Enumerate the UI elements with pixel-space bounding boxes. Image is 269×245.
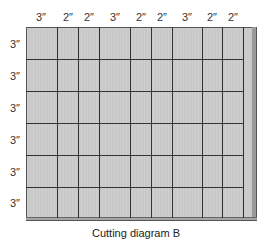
cutting-diagram: 3″ 2″ 2″ 3″ 2″ 2″ 3″ 2″ 2″ 3″ 3″ 3″ 3″ 3…: [0, 0, 269, 245]
diagram-caption: Cutting diagram B: [92, 227, 180, 239]
row-label: 3″: [10, 103, 20, 114]
horizontal-cut-line: [26, 91, 244, 92]
column-label: 2″: [63, 12, 73, 23]
column-label: 2″: [228, 12, 238, 23]
horizontal-cut-line: [26, 59, 244, 60]
row-label: 3″: [10, 198, 20, 209]
column-label: 2″: [207, 12, 217, 23]
row-label: 3″: [10, 167, 20, 178]
column-label: 3″: [36, 12, 46, 23]
column-label: 2″: [84, 12, 94, 23]
row-label: 3″: [10, 135, 20, 146]
horizontal-cut-line: [26, 155, 244, 156]
column-label: 3″: [182, 12, 192, 23]
row-label: 3″: [10, 39, 20, 50]
column-label: 2″: [136, 12, 146, 23]
column-label: 3″: [110, 12, 120, 23]
waste-strip-right: [252, 27, 257, 221]
horizontal-cut-line: [26, 123, 244, 124]
row-label: 3″: [10, 71, 20, 82]
horizontal-cut-line: [26, 187, 244, 188]
column-label: 2″: [157, 12, 167, 23]
